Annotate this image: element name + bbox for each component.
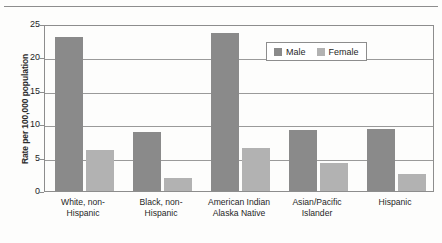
legend-label: Male — [286, 47, 306, 57]
bar-female — [398, 174, 426, 191]
legend-swatch-icon — [274, 48, 282, 56]
gridline — [45, 126, 433, 127]
x-axis-category-label: Hispanic — [356, 197, 434, 208]
category-label-line: White, non- — [44, 197, 122, 208]
bar-male — [133, 132, 161, 191]
bar-female — [242, 148, 270, 191]
y-axis-tick-label: 5 — [14, 153, 40, 163]
legend-entry-male: Male — [274, 47, 306, 57]
bar-male — [55, 37, 83, 191]
bar-female — [86, 150, 114, 191]
top-divider-rule — [4, 6, 438, 7]
gridline — [45, 93, 433, 94]
y-axis-tick-label: 0 — [14, 186, 40, 196]
bar-male — [211, 33, 239, 191]
x-axis-category-label: Asian/PacificIslander — [278, 197, 356, 219]
chart-figure: Rate per 100,000 population 0510152025 W… — [0, 0, 442, 243]
category-label-line: Islander — [278, 208, 356, 219]
bar-male — [289, 130, 317, 191]
y-axis-tick-label: 15 — [14, 86, 40, 96]
x-axis-category-label: White, non-Hispanic — [44, 197, 122, 219]
bar-female — [320, 163, 348, 191]
chart-legend: MaleFemale — [266, 42, 367, 61]
plot-area — [44, 25, 434, 192]
category-label-line: Hispanic — [122, 208, 200, 219]
bar-male — [367, 129, 395, 191]
legend-entry-female: Female — [317, 47, 359, 57]
category-label-line: American Indian — [200, 197, 278, 208]
category-label-line: Alaska Native — [200, 208, 278, 219]
gridline — [45, 59, 433, 60]
x-axis-category-label: Black, non-Hispanic — [122, 197, 200, 219]
y-axis-tick-label: 10 — [14, 119, 40, 129]
bar-female — [164, 178, 192, 191]
legend-swatch-icon — [317, 48, 325, 56]
x-axis-category-label: American IndianAlaska Native — [200, 197, 278, 219]
y-axis-tick-label: 25 — [14, 19, 40, 29]
category-label-line: Black, non- — [122, 197, 200, 208]
legend-label: Female — [329, 47, 359, 57]
y-axis-tick-label: 20 — [14, 52, 40, 62]
category-label-line: Hispanic — [356, 197, 434, 208]
category-label-line: Asian/Pacific — [278, 197, 356, 208]
y-axis-tick-mark — [38, 192, 44, 193]
category-label-line: Hispanic — [44, 208, 122, 219]
